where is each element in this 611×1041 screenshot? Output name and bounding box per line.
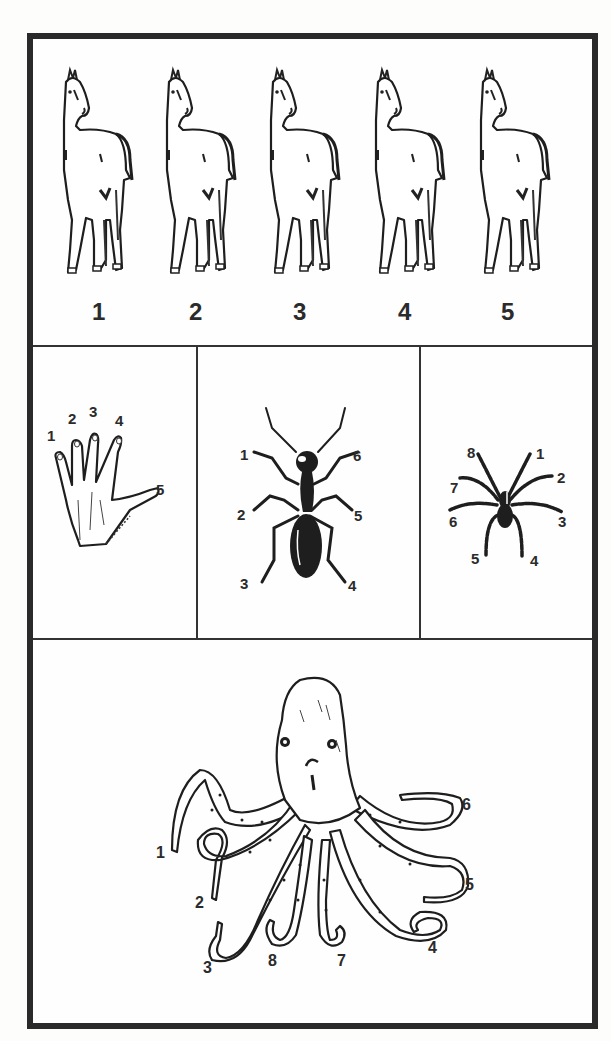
octopus-drawing: [0, 0, 611, 1041]
octopus-label-7: 7: [337, 953, 346, 969]
octopus-label-4: 4: [428, 940, 437, 956]
octopus-label-2: 2: [195, 895, 204, 911]
octopus-label-8: 8: [268, 953, 277, 969]
octopus-label-3: 3: [203, 960, 212, 976]
octopus-label-5: 5: [465, 877, 474, 893]
octopus-label-1: 1: [156, 845, 165, 861]
octopus-panel: 1 2 3 8 7 4 5 6: [0, 0, 611, 1041]
octopus-label-6: 6: [462, 797, 471, 813]
